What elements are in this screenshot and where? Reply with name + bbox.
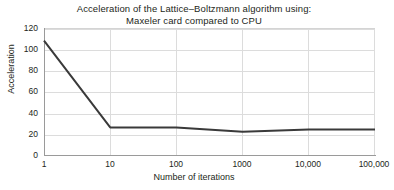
gridline-x-1000 <box>242 29 243 156</box>
x-axis-line <box>44 155 376 156</box>
x-tick-label-10: 10 <box>80 159 140 169</box>
gridline-x-10 <box>110 29 111 156</box>
x-tick-label-100: 100 <box>146 159 206 169</box>
chart-title-line-1: Acceleration of the Lattice–Boltzmann al… <box>0 3 388 15</box>
x-axis-label: Number of iterations <box>0 172 388 182</box>
y-tick-label-20: 20 <box>4 130 38 139</box>
gridline-x-10000 <box>308 29 309 156</box>
y-axis-line <box>44 28 45 156</box>
plot-area <box>44 28 375 155</box>
chart-title: Acceleration of the Lattice–Boltzmann al… <box>0 3 388 26</box>
chart-title-line-2: Maxeler card compared to CPU <box>0 15 388 27</box>
gridline-y-120 <box>44 29 375 30</box>
gridline-y-20 <box>44 135 375 136</box>
gridline-y-60 <box>44 92 375 93</box>
gridline-x-100000 <box>374 29 375 156</box>
gridline-y-80 <box>44 71 375 72</box>
x-tick-label-10000: 10,000 <box>278 159 338 169</box>
gridline-y-100 <box>44 50 375 51</box>
gridline-y-40 <box>44 114 375 115</box>
y-axis-label: Acceleration <box>6 26 16 112</box>
gridline-x-100 <box>176 29 177 156</box>
x-tick-label-1000: 1000 <box>212 159 272 169</box>
x-tick-label-1: 1 <box>14 159 74 169</box>
x-tick-label-100000: 100,000 <box>344 159 394 169</box>
